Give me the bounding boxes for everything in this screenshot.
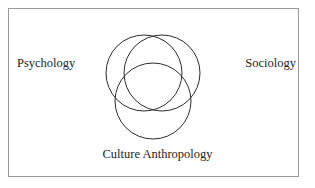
venn-diagram-page: Psychology Sociology Culture Anthropolog… <box>0 0 315 188</box>
label-psychology: Psychology <box>17 57 75 71</box>
label-culture-anthropology: Culture Anthropology <box>0 148 315 162</box>
label-sociology: Sociology <box>245 57 296 71</box>
